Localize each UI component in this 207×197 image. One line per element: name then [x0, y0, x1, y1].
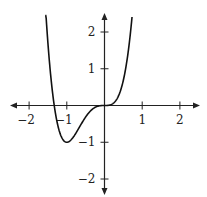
x-axis-right-arrow-icon	[193, 103, 200, 109]
function-plot: −2−112 −2−112	[0, 0, 207, 197]
y-tick-label: −1	[78, 135, 96, 149]
x-axis-left-arrow-icon	[10, 103, 17, 109]
x-tick-label: −2	[17, 113, 35, 127]
y-axis-down-arrow-icon	[102, 188, 108, 195]
y-axis-up-arrow-icon	[102, 13, 108, 20]
y-tick-label: 2	[88, 25, 96, 39]
y-tick-label: 1	[88, 62, 96, 76]
x-tick-label: 2	[176, 113, 184, 127]
x-tick-label: 1	[138, 113, 146, 127]
y-tick-label: −2	[78, 172, 96, 186]
y-axis	[102, 13, 108, 195]
